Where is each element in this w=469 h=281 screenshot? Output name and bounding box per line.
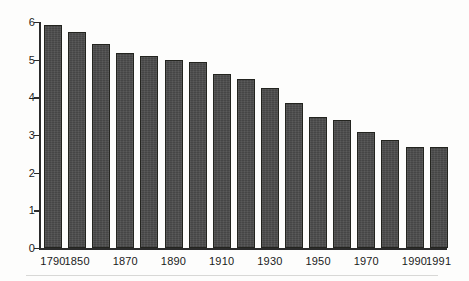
x-axis-labels: 1790185018701890191019301950197019901991 xyxy=(39,14,449,255)
plot-area: 0123456 17901850187018901910193019501970… xyxy=(39,14,449,255)
x-tick-label-1790: 1790 xyxy=(40,255,65,267)
y-tick-label: 1 xyxy=(29,204,35,216)
x-tick-label-1930: 1930 xyxy=(257,255,282,267)
bar-chart-figure: 0123456 17901850187018901910193019501970… xyxy=(0,0,469,281)
scan-artifact-line xyxy=(26,275,438,276)
y-tick-label: 4 xyxy=(29,91,35,103)
x-tick-label-1890: 1890 xyxy=(161,255,186,267)
x-tick-label-1970: 1970 xyxy=(354,255,379,267)
y-tick-label: 2 xyxy=(29,167,35,179)
y-tick-label: 6 xyxy=(29,16,35,28)
y-tick-label: 5 xyxy=(29,54,35,66)
x-tick-label-1991: 1991 xyxy=(426,255,451,267)
x-tick-label-1950: 1950 xyxy=(305,255,330,267)
x-tick-label-1990: 1990 xyxy=(402,255,427,267)
y-tick-label: 3 xyxy=(29,129,35,141)
x-tick-label-1870: 1870 xyxy=(113,255,138,267)
x-tick-label-1910: 1910 xyxy=(209,255,234,267)
y-tick-label: 0 xyxy=(29,242,35,254)
x-tick-label-1850: 1850 xyxy=(64,255,89,267)
